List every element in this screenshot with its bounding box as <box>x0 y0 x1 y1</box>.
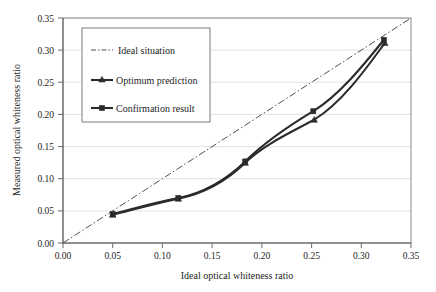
y-tick-label: 0.05 <box>37 206 54 216</box>
y-tickmarks <box>58 18 63 243</box>
y-tick-label: 0.25 <box>37 78 54 88</box>
x-tick-label: 0.10 <box>154 251 171 261</box>
y-tick-label: 0.20 <box>37 110 54 120</box>
chart-legend: Ideal situation Optimum prediction Confi… <box>82 28 210 122</box>
x-tick-label: 0.25 <box>303 251 320 261</box>
y-tick-label: 0.00 <box>37 239 54 249</box>
y-tick-label: 0.30 <box>37 46 54 56</box>
legend-item-label: Confirmation result <box>116 103 195 114</box>
chart-figure: 0.35 0.30 0.25 0.20 0.15 0.10 0.05 0.00 … <box>0 0 436 292</box>
legend-item-label: Ideal situation <box>118 45 175 56</box>
x-axis-title: Ideal optical whiteness ratio <box>181 270 293 281</box>
y-tick-labels: 0.35 0.30 0.25 0.20 0.15 0.10 0.05 0.00 <box>37 14 54 249</box>
legend-square-marker-icon <box>100 106 105 111</box>
x-tickmarks <box>63 243 411 248</box>
y-axis-title: Measured optical whiteness ratio <box>11 64 22 196</box>
x-tick-label: 0.35 <box>403 251 420 261</box>
y-tick-label: 0.35 <box>37 14 54 24</box>
x-tick-label: 0.05 <box>104 251 121 261</box>
x-tick-labels: 0.00 0.05 0.10 0.15 0.20 0.25 0.30 0.35 <box>55 251 420 261</box>
y-tick-label: 0.15 <box>37 142 54 152</box>
legend-item-label: Optimum prediction <box>116 75 197 86</box>
x-tick-label: 0.30 <box>353 251 370 261</box>
x-tick-label: 0.20 <box>254 251 271 261</box>
x-tick-label: 0.00 <box>55 251 72 261</box>
optical-whiteness-scatter-line-chart: 0.35 0.30 0.25 0.20 0.15 0.10 0.05 0.00 … <box>0 0 436 292</box>
x-tick-label: 0.15 <box>204 251 221 261</box>
y-tick-label: 0.10 <box>37 174 54 184</box>
